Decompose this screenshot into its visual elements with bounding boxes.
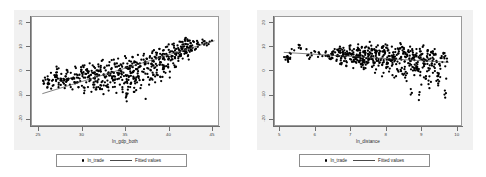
legend-label-ln-trade-right: ln_trade bbox=[330, 158, 347, 163]
y-tick-label: -20 bbox=[18, 108, 23, 130]
y-tick-mark bbox=[26, 46, 30, 47]
legend-line-icon bbox=[353, 160, 375, 161]
x-tick-label: 10 bbox=[446, 132, 468, 137]
x-tick-label: 9 bbox=[410, 132, 432, 137]
figure-container: 20100-10-20 2530354045 ln_gdp_both ln_tr… bbox=[0, 0, 486, 177]
x-tick-mark bbox=[82, 127, 83, 131]
x-tick-mark bbox=[421, 127, 422, 131]
y-tick-label: 0 bbox=[261, 59, 266, 81]
x-tick-label: 30 bbox=[71, 132, 93, 137]
x-axis-title-left: ln_gdp_both bbox=[31, 139, 219, 144]
legend-label-fitted-left: Fitted values bbox=[135, 158, 161, 163]
x-tick-mark bbox=[315, 127, 316, 131]
legend-marker-dot-icon bbox=[325, 159, 328, 162]
legend-label-ln-trade-left: ln_trade bbox=[87, 158, 104, 163]
x-tick-mark bbox=[169, 127, 170, 131]
y-tick-mark bbox=[269, 119, 273, 120]
legend-left: ln_trade Fitted values bbox=[56, 154, 187, 167]
x-tick-mark bbox=[212, 127, 213, 131]
x-tick-label: 7 bbox=[339, 132, 361, 137]
y-tick-mark bbox=[26, 119, 30, 120]
y-tick-mark bbox=[269, 46, 273, 47]
x-tick-mark bbox=[279, 127, 280, 131]
y-tick-mark bbox=[269, 95, 273, 96]
legend-item-scatter-left: ln_trade bbox=[82, 158, 104, 163]
legend-line-icon bbox=[110, 160, 132, 161]
x-tick-label: 8 bbox=[375, 132, 397, 137]
x-axis-title-right: ln_distance bbox=[274, 139, 462, 144]
y-tick-label: -10 bbox=[261, 84, 266, 106]
x-tick-label: 5 bbox=[268, 132, 290, 137]
x-tick-mark bbox=[38, 127, 39, 131]
y-axis-line-left bbox=[30, 16, 31, 127]
x-tick-mark bbox=[386, 127, 387, 131]
x-tick-label: 35 bbox=[114, 132, 136, 137]
legend-item-fit-left: Fitted values bbox=[110, 158, 161, 163]
legend-marker-dot-icon bbox=[82, 159, 85, 162]
x-tick-label: 6 bbox=[304, 132, 326, 137]
x-tick-mark bbox=[350, 127, 351, 131]
legend-item-scatter-right: ln_trade bbox=[325, 158, 347, 163]
y-tick-mark bbox=[26, 95, 30, 96]
y-tick-mark bbox=[269, 70, 273, 71]
y-tick-mark bbox=[26, 22, 30, 23]
y-tick-label: -20 bbox=[261, 108, 266, 130]
x-tick-label: 45 bbox=[201, 132, 223, 137]
scatter-plot-left bbox=[32, 17, 218, 125]
y-axis-line-right bbox=[273, 16, 274, 127]
legend-label-fitted-right: Fitted values bbox=[378, 158, 404, 163]
chart-panel-left: 20100-10-20 2530354045 ln_gdp_both ln_tr… bbox=[0, 0, 243, 177]
x-tick-mark bbox=[457, 127, 458, 131]
y-tick-label: 10 bbox=[261, 35, 266, 57]
plot-area-right bbox=[274, 16, 462, 126]
x-tick-label: 40 bbox=[158, 132, 180, 137]
scatter-plot-right bbox=[275, 17, 461, 125]
y-tick-label: 0 bbox=[18, 59, 23, 81]
y-tick-label: 20 bbox=[261, 11, 266, 33]
y-tick-label: -10 bbox=[18, 84, 23, 106]
y-tick-mark bbox=[269, 22, 273, 23]
legend-right: ln_trade Fitted values bbox=[299, 154, 430, 167]
chart-panel-right: 20100-10-20 5678910 ln_distance ln_trade… bbox=[243, 0, 486, 177]
legend-item-fit-right: Fitted values bbox=[353, 158, 404, 163]
x-axis-line-right bbox=[273, 126, 463, 127]
y-tick-label: 10 bbox=[18, 35, 23, 57]
y-tick-label: 20 bbox=[18, 11, 23, 33]
y-tick-mark bbox=[26, 70, 30, 71]
x-tick-mark bbox=[125, 127, 126, 131]
plot-area-left bbox=[31, 16, 219, 126]
x-tick-label: 25 bbox=[27, 132, 49, 137]
